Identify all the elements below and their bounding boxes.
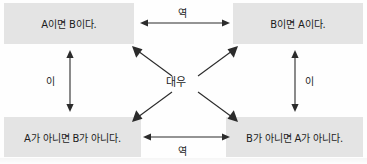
proposition-box-bottom-left: A가 아니면 B가 아니다. (4, 117, 141, 157)
edge-label-top-converse: 역 (178, 5, 187, 20)
double-arrow-right-inverse (288, 50, 302, 112)
edge-label-right-inverse: 이 (305, 73, 314, 88)
double-arrow-left-inverse (63, 50, 77, 112)
center-label-contrapositive: 대우 (166, 73, 186, 89)
diagonal-arrow-upper-right-contrapositive (196, 46, 238, 78)
proposition-box-bottom-right: B가 아니면 A가 아니다. (226, 117, 363, 157)
double-arrow-bottom-converse (143, 130, 230, 144)
logic-relation-diagram: A이면 B이다. B이면 A이다. A가 아니면 B가 아니다. B가 아니면 … (0, 0, 367, 164)
edge-label-bottom-converse: 역 (178, 143, 187, 158)
proposition-box-top-right: B이면 A이다. (233, 3, 363, 44)
edge-label-left-inverse: 이 (46, 73, 55, 88)
scan-artifact-bottom (0, 158, 367, 164)
proposition-box-top-left: A이면 B이다. (4, 3, 134, 44)
